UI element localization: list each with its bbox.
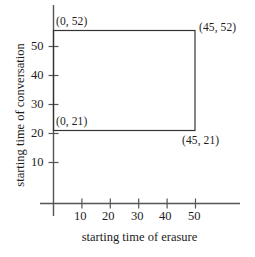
annotation-top-left: (0, 52)	[56, 15, 87, 27]
x-tick-label-50: 50	[188, 209, 201, 224]
y-tick-label-10: 10	[31, 155, 44, 170]
x-axis-title: starting time of erasure	[0, 230, 255, 245]
annotation-bottom-left: (0, 21)	[56, 115, 87, 127]
x-tick-label-30: 30	[131, 209, 144, 224]
x-tick-label-10: 10	[74, 209, 87, 224]
annotation-bottom-right: (45, 21)	[182, 134, 219, 146]
y-axis-title-wrapper: starting time of conversation	[11, 35, 29, 195]
x-tick-label-40: 40	[159, 209, 172, 224]
x-tick-label-20: 20	[102, 209, 115, 224]
y-tick-label-30: 30	[31, 97, 44, 112]
annotation-top-right: (45, 52)	[199, 21, 236, 33]
y-tick-label-50: 50	[31, 39, 44, 54]
y-axis-title: starting time of conversation	[11, 35, 29, 195]
y-tick-label-20: 20	[31, 126, 44, 141]
y-tick-label-40: 40	[31, 68, 44, 83]
chart-figure: 10 20 30 40 50 10 20 30 40 50 (0, 52) (4…	[0, 0, 255, 257]
